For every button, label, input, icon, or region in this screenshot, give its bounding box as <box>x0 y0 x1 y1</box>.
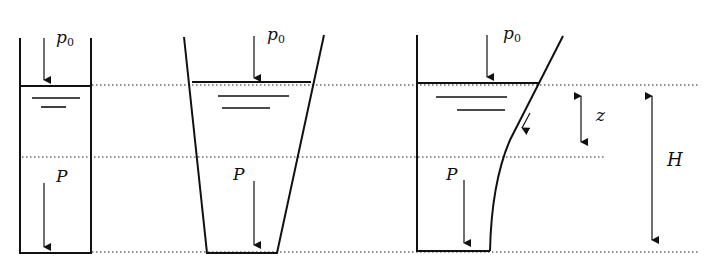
p0-label-2: p0 <box>267 24 285 46</box>
straight-container <box>20 38 91 253</box>
curved-wall-container <box>417 35 563 251</box>
z-label: z <box>595 105 606 125</box>
H-label: H <box>666 149 683 170</box>
dimension-arrows <box>581 96 652 240</box>
P-label-2: P <box>232 164 245 184</box>
container3-arrows <box>464 35 530 243</box>
hydrostatic-diagram: p0 P p0 P p0 P z H <box>0 0 710 269</box>
P-label-1: P <box>55 166 68 186</box>
p0-label-1: p0 <box>56 27 74 49</box>
p0-label-3: p0 <box>503 23 521 45</box>
P-label-3: P <box>445 164 458 184</box>
